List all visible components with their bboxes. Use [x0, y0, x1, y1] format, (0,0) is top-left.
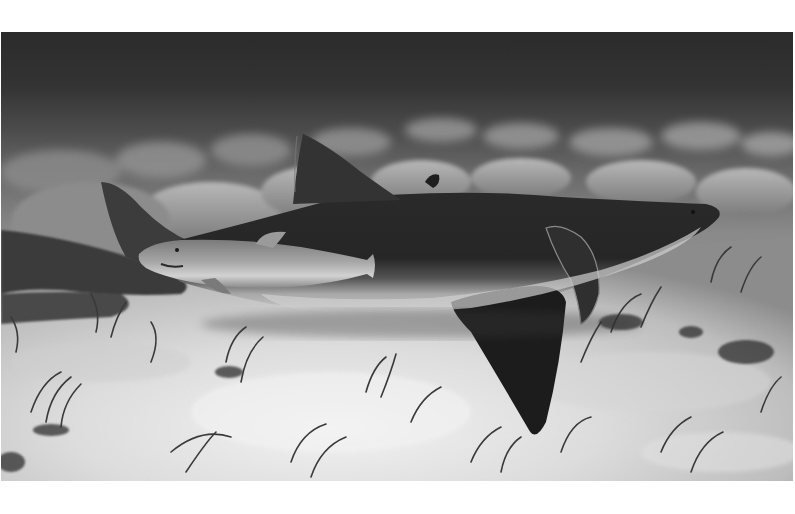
small-shark-eye — [175, 248, 179, 252]
large-shark-eye — [691, 210, 695, 214]
shark-photograph — [1, 32, 793, 481]
shark-scene — [1, 32, 793, 481]
shark-shadow — [201, 310, 641, 338]
